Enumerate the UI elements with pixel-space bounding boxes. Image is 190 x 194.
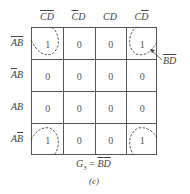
equation-equals: = — [87, 158, 98, 169]
equation: G3 = BD — [76, 158, 111, 172]
group-loop-top-left — [31, 27, 58, 55]
variable: D — [169, 55, 176, 66]
group-loop-bottom-left — [31, 128, 58, 155]
group-loop-bottom-right — [130, 128, 157, 155]
figure-caption: (c) — [89, 176, 99, 186]
group-label-bd: BD — [163, 55, 176, 66]
variable: D — [103, 158, 110, 169]
equation-rhs: BD — [97, 158, 110, 169]
arrowhead-icon — [150, 49, 155, 53]
